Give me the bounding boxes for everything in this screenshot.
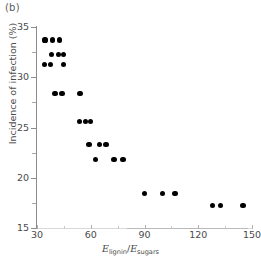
x-tick-label-120: 120	[183, 230, 213, 240]
y-tick-minor	[32, 153, 36, 154]
data-point	[59, 91, 64, 96]
data-point	[103, 142, 108, 147]
data-point	[77, 91, 82, 96]
x-axis-title-denominator: Esugars	[130, 243, 159, 254]
plot-data-area	[37, 27, 252, 228]
data-point	[210, 203, 215, 208]
data-point	[48, 62, 53, 67]
y-tick-35	[31, 27, 36, 28]
scatter-plot-figure: (b) 1520253035 306090120150 Incidence of…	[0, 0, 261, 259]
x-tick-label-60: 60	[76, 230, 106, 240]
y-axis-title: Incidence of infection (%)	[7, 4, 18, 164]
y-tick-minor	[32, 203, 36, 204]
data-point	[49, 52, 54, 57]
data-point	[50, 37, 55, 42]
y-tick-label-20: 20	[0, 173, 29, 183]
y-tick-minor	[32, 52, 36, 53]
y-tick-20	[31, 178, 36, 179]
y-tick-minor	[32, 102, 36, 103]
data-point	[57, 37, 62, 42]
data-point	[120, 157, 125, 162]
data-point	[42, 62, 47, 67]
x-axis-title-den-subscript: sugars	[137, 248, 159, 256]
data-point	[52, 91, 57, 96]
x-tick-label-150: 150	[237, 230, 261, 240]
data-point	[218, 203, 223, 208]
y-tick-30	[31, 77, 36, 78]
data-point	[97, 142, 102, 147]
x-tick-label-30: 30	[22, 230, 52, 240]
data-point	[93, 157, 98, 162]
data-point	[111, 157, 116, 162]
data-point	[172, 191, 177, 196]
x-tick-label-90: 90	[130, 230, 160, 240]
y-tick-25	[31, 128, 36, 129]
data-point	[88, 119, 93, 124]
x-axis-title-num-subscript: lignin	[109, 248, 127, 256]
x-axis-title: Elignin/Esugars	[0, 243, 261, 254]
x-axis-title-numerator: Elignin	[102, 243, 127, 254]
x-axis-title-num-symbol: E	[102, 243, 109, 254]
data-point	[86, 142, 91, 147]
data-point	[77, 119, 82, 124]
data-point	[240, 203, 245, 208]
data-point	[61, 62, 66, 67]
data-point	[61, 52, 66, 57]
data-point	[42, 37, 47, 42]
data-point	[142, 191, 147, 196]
data-point	[160, 191, 165, 196]
